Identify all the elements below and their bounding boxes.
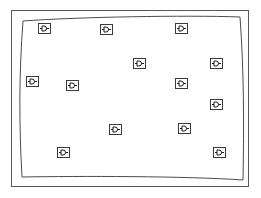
sensor-node-icon[interactable] [57, 147, 70, 158]
sensor-node-icon[interactable] [26, 76, 39, 87]
sensor-deployment-figure [0, 0, 261, 198]
sensor-node-icon[interactable] [210, 99, 223, 110]
sensor-node-icon[interactable] [175, 78, 188, 89]
sensor-node-icon[interactable] [100, 24, 113, 35]
sensor-node-icon[interactable] [109, 124, 122, 135]
sensor-node-icon[interactable] [66, 80, 79, 91]
sensor-node-icon[interactable] [213, 147, 226, 158]
sensor-node-icon[interactable] [210, 58, 223, 69]
sensor-node-icon[interactable] [175, 23, 188, 34]
sensor-node-icon[interactable] [38, 23, 51, 34]
sensor-node-icon[interactable] [178, 123, 191, 134]
sensor-node-icon[interactable] [133, 58, 146, 69]
